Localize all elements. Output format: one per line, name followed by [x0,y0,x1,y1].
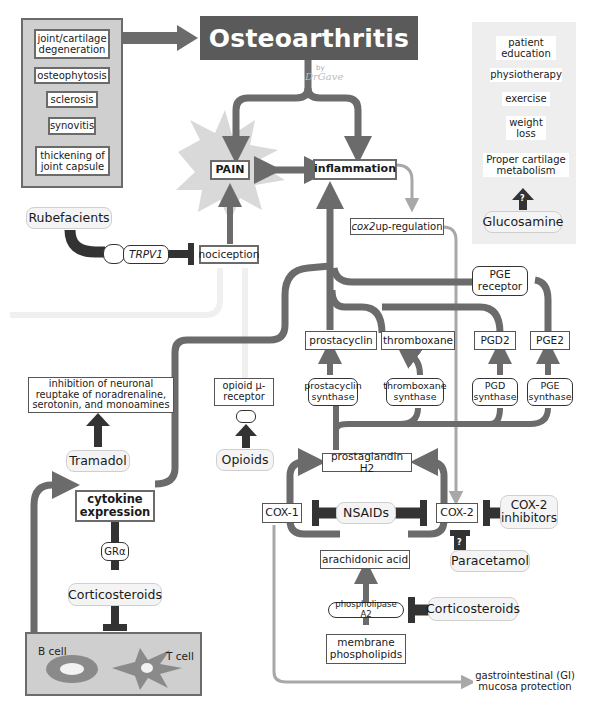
feature-synovitis: synovitis [48,117,96,135]
page-title: Osteoarthritis [200,16,418,60]
node-tramadol-effect: inhibition of neuronal reuptake of norad… [28,377,174,413]
feature-joint-cartilage-degeneration: joint/cartilage degeneration [34,29,110,59]
label-t-cell: T cell [166,650,194,662]
paracetamol-uncertain-mark: ? [457,538,462,547]
cox2-gene-label: cox2 [352,221,376,232]
drug-opioids: Opioids [216,449,274,471]
node-cox2: COX-2 [436,503,478,523]
trpv1-receptor-icon [103,244,125,264]
drug-tramadol: Tramadol [66,450,130,472]
node-thromboxane-synthase: thromboxane synthase [386,378,444,406]
node-prostacyclin-synthase: prostacyclin synthase [308,378,358,406]
drug-corticosteroids-pla2: Corticosteroids [428,597,518,621]
drug-rubefacients: Rubefacients [26,207,112,229]
management-exercise: exercise [502,92,550,106]
drug-paracetamol: Paracetamol [450,550,530,572]
node-membrane-phospholipids: membrane phospholipids [326,634,406,664]
feature-osteophytosis: osteophytosis [34,67,110,84]
node-opioid-receptor: opioid µ-receptor [214,378,274,406]
feature-sclerosis: sclerosis [46,91,98,108]
node-cox1: COX-1 [262,503,302,523]
management-physiotherapy: physiotherapy [490,68,562,82]
node-trpv1: TRPV1 [123,245,169,264]
drug-cox2-inhibitors: COX-2 inhibitors [500,495,558,529]
drug-corticosteroids-gr: Corticosteroids [68,583,162,606]
signature-author: DrGave [305,71,343,82]
upregulation-label: up-regulation [375,221,442,232]
node-cox2-upregulation: cox2 up-regulation [350,218,444,235]
node-pgd-synthase: PGD synthase [472,378,518,406]
drug-nsaids: NSAIDs [336,502,396,524]
uncertain-mark: ? [520,194,525,203]
node-pge-receptor: PGE receptor [472,266,528,296]
node-pge2: PGE2 [530,331,570,350]
management-cartilage-metabolism: Proper cartilage metabolism [483,153,569,177]
node-prostaglandin-h2: prostaglandin H2 [322,453,412,472]
node-gi-mucosa-protection: gastrointestinal (GI) mucosa protection [473,667,577,695]
node-gr-alpha: GRα [101,542,129,561]
node-nociception: nociception [199,245,259,264]
management-patient-education: patient education [496,36,556,60]
node-phospholipase-a2: phospholipase A2 [328,602,404,618]
node-cytokine-expression: cytokine expression [75,490,155,522]
node-arachidonic-acid: arachidonic acid [320,550,410,569]
node-inflammation: inflammation [313,159,397,180]
drug-glucosamine: Glucosamine [484,211,562,233]
node-prostacyclin: prostacyclin [305,331,377,350]
feature-thickening-joint-capsule: thickening of joint capsule [35,146,110,176]
node-thromboxane: thromboxane [381,331,455,350]
label-b-cell: B cell [38,645,67,657]
node-pgd2: PGD2 [474,331,516,350]
node-pain: PAIN [210,160,250,180]
management-weight-loss: weight loss [506,116,546,140]
mu-receptor-icon [236,410,256,423]
node-pge-synthase: PGE synthase [527,378,573,406]
